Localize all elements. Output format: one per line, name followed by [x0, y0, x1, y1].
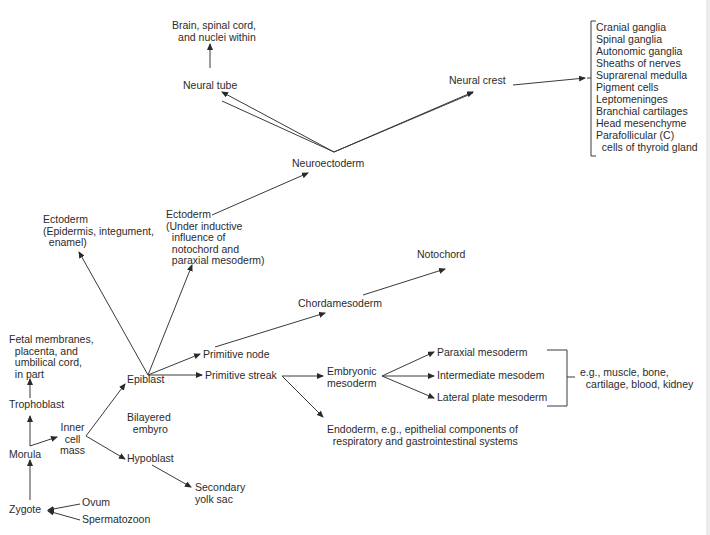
node-ectoderm-surface: Ectoderm (Epidermis, integument, enamel): [43, 214, 154, 249]
list-item: Leptomeninges: [596, 93, 698, 105]
list-item: Branchial cartilages: [596, 105, 698, 117]
node-hypoblast: Hypoblast: [127, 453, 174, 465]
node-embryonic-mesoderm: Embryonic mesoderm: [327, 366, 377, 389]
node-fetal-membranes: Fetal membranes, placenta, and umbilical…: [9, 334, 94, 380]
node-mesoderm-derivatives: e.g., muscle, bone, cartilage, blood, ki…: [580, 367, 693, 390]
node-paraxial-mesoderm: Paraxial mesoderm: [437, 347, 527, 359]
list-item: Suprarenal medulla: [596, 69, 698, 81]
node-chordamesoderm: Chordamesoderm: [298, 298, 382, 310]
list-item: cells of thyroid gland: [596, 141, 698, 153]
list-item: Head mesenchyme: [596, 117, 698, 129]
node-brain-spinal-cord: Brain, spinal cord, and nuclei within: [172, 20, 256, 43]
list-item: Sheaths of nerves: [596, 57, 698, 69]
list-item: Spinal ganglia: [596, 33, 698, 45]
node-notochord: Notochord: [417, 249, 465, 261]
node-trophoblast: Trophoblast: [9, 399, 64, 411]
node-secondary-yolk-sac: Secondary yolk sac: [195, 482, 245, 505]
neural-crest-derivatives-list: Cranial ganglia Spinal ganglia Autonomic…: [596, 21, 698, 153]
germ-layer-derivation-diagram: Brain, spinal cord, and nuclei within Ne…: [0, 0, 710, 535]
node-zygote: Zygote: [9, 504, 41, 516]
node-spermatozoon: Spermatozoon: [82, 514, 150, 526]
list-item: Autonomic ganglia: [596, 45, 698, 57]
list-item: Cranial ganglia: [596, 21, 698, 33]
node-primitive-node: Primitive node: [203, 349, 270, 361]
node-endoderm: Endoderm, e.g., epithelial components of…: [327, 424, 518, 447]
node-morula: Morula: [9, 449, 41, 461]
node-epiblast: Epiblast: [127, 374, 164, 386]
page-edge-shadow: [706, 0, 710, 535]
list-item: Pigment cells: [596, 81, 698, 93]
node-neuroectoderm: Neuroectoderm: [292, 158, 364, 170]
node-intermediate-mesoderm: Intermediate mesodem: [437, 370, 544, 382]
node-neural-tube: Neural tube: [183, 80, 237, 92]
node-primitive-streak: Primitive streak: [205, 370, 277, 382]
node-lateral-plate-mesoderm: Lateral plate mesoderm: [437, 392, 547, 404]
node-ectoderm-neural: Ectoderm (Under inductive influence of n…: [166, 209, 265, 267]
node-bilayered-embryo: Bilayered embyro: [127, 412, 171, 435]
list-item: Parafollicular (C): [596, 129, 698, 141]
node-inner-cell-mass: Inner cell mass: [60, 422, 85, 457]
node-ovum: Ovum: [82, 497, 110, 509]
node-neural-crest: Neural crest: [449, 75, 506, 87]
